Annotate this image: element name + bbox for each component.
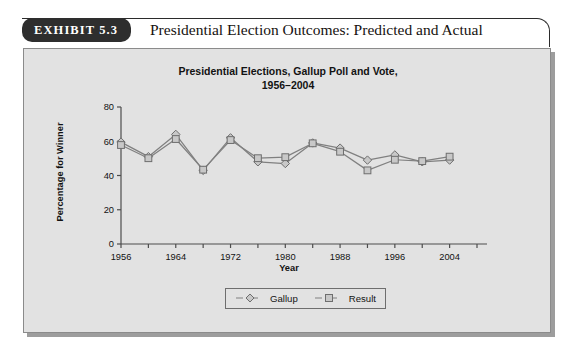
svg-text:1972: 1972 xyxy=(220,252,241,262)
svg-text:1988: 1988 xyxy=(330,252,351,262)
exhibit-page: EXHIBIT 5.3 Presidential Election Outcom… xyxy=(0,0,585,352)
diamond-icon xyxy=(235,292,265,304)
svg-text:20: 20 xyxy=(104,205,114,215)
square-icon xyxy=(314,292,344,304)
svg-text:1956: 1956 xyxy=(111,252,132,262)
svg-text:60: 60 xyxy=(104,137,114,147)
svg-text:40: 40 xyxy=(104,171,114,181)
chart-panel: Presidential Elections, Gallup Poll and … xyxy=(23,48,551,333)
chart-legend: Gallup Result xyxy=(225,288,386,309)
svg-text:1996: 1996 xyxy=(385,252,406,262)
y-axis-title: Percentage for Winner xyxy=(55,112,65,232)
exhibit-title: Presidential Election Outcomes: Predicte… xyxy=(150,19,483,41)
svg-text:1980: 1980 xyxy=(275,252,296,262)
svg-text:2004: 2004 xyxy=(439,252,460,262)
x-axis-title: Year xyxy=(124,263,454,273)
legend-item-gallup: Gallup xyxy=(235,292,298,304)
exhibit-badge: EXHIBIT 5.3 xyxy=(22,18,131,42)
legend-item-result: Result xyxy=(314,292,376,304)
svg-text:1964: 1964 xyxy=(165,252,186,262)
svg-text:0: 0 xyxy=(109,239,114,249)
svg-text:80: 80 xyxy=(104,102,114,112)
legend-label-result: Result xyxy=(349,293,376,304)
exhibit-header: EXHIBIT 5.3 Presidential Election Outcom… xyxy=(22,18,550,48)
legend-label-gallup: Gallup xyxy=(270,293,298,304)
